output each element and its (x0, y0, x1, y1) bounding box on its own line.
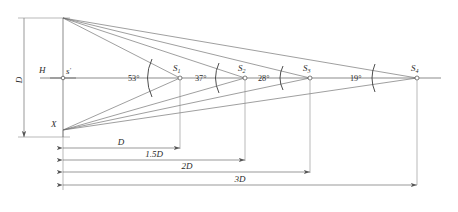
label-dim-3D: 3D (234, 174, 247, 184)
ray-apex-S2 (63, 18, 245, 78)
label-H: H (38, 65, 46, 75)
label-dim-D: D (117, 137, 125, 147)
ray-X-S1 (63, 78, 180, 130)
ray-apex-S3 (63, 18, 310, 78)
label-s-prime: s′ (66, 66, 72, 77)
label-S4-subscript: 4 (416, 68, 419, 74)
label-S2: S2 (238, 63, 246, 74)
ray-X-S2 (63, 78, 245, 130)
label-angle-37: 37° (195, 74, 206, 83)
label-X: X (50, 119, 57, 129)
ray-diagram-svg: H s′ X D S1 S2 S3 S4 53° 37° 28° 19° D 1… (0, 0, 458, 212)
node-S2 (243, 76, 247, 80)
label-S2-subscript: 2 (243, 68, 246, 74)
node-S1 (178, 76, 182, 80)
label-angle-53: 53° (128, 74, 139, 83)
label-s-prime-mark: ′ (70, 66, 72, 73)
label-S1: S1 (173, 63, 181, 74)
ray-X-S4 (63, 78, 417, 130)
label-S1-subscript: 1 (178, 68, 181, 74)
ray-X-S3 (63, 78, 310, 130)
label-dim-2D: 2D (182, 161, 194, 171)
diagram-canvas: H s′ X D S1 S2 S3 S4 53° 37° 28° 19° D 1… (0, 0, 458, 212)
node-S3 (308, 76, 312, 80)
node-s-prime (61, 76, 65, 80)
ray-apex-S1 (63, 18, 180, 78)
label-angle-19: 19° (350, 74, 361, 83)
node-S4 (415, 76, 419, 80)
label-S3: S3 (303, 63, 311, 74)
label-S4: S4 (411, 63, 419, 74)
label-dim-1_5D: 1.5D (145, 149, 163, 159)
label-angle-28: 28° (258, 74, 269, 83)
label-vertical-D: D (14, 76, 24, 84)
label-S3-subscript: 3 (307, 68, 311, 74)
rays-from-X (63, 78, 417, 130)
